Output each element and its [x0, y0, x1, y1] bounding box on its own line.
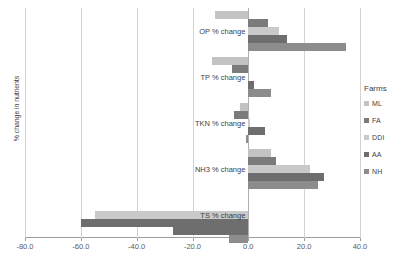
- legend-swatch-icon: [364, 152, 369, 157]
- bar-ml-2: [240, 103, 248, 111]
- legend-swatch-icon: [364, 135, 369, 140]
- y-axis-title: % change in nutrients: [13, 44, 20, 174]
- legend-title: Farms: [364, 84, 408, 93]
- bar-extra-0: [173, 227, 248, 235]
- bar-chart: % change in nutrients OP % changeTP % ch…: [0, 0, 408, 268]
- gridline--80: [25, 8, 26, 238]
- bar-ddi-2: [248, 119, 249, 127]
- plot-area: OP % changeTP % changeTKN % changeNH3 % …: [25, 8, 360, 238]
- legend: Farms MLFADDIAANH: [364, 84, 408, 184]
- category-label-4: TS % change: [163, 211, 245, 220]
- legend-item-fa[interactable]: FA: [364, 116, 408, 125]
- bar-fa-3: [248, 157, 276, 165]
- legend-label: NH: [372, 168, 383, 175]
- x-tick-mark: [360, 238, 361, 241]
- bar-aa-2: [248, 127, 265, 135]
- legend-swatch-icon: [364, 101, 369, 106]
- x-tick-mark: [81, 238, 82, 241]
- legend-items: MLFADDIAANH: [364, 99, 408, 176]
- legend-label: AA: [372, 151, 382, 158]
- x-tick-mark: [304, 238, 305, 241]
- bar-nh-3: [248, 181, 318, 189]
- category-label-2: TKN % change: [163, 119, 245, 128]
- x-tick-label: -60.0: [72, 242, 89, 251]
- bar-aa-4: [81, 219, 249, 227]
- bar-nh-0: [248, 43, 346, 51]
- legend-label: DDI: [372, 134, 385, 141]
- x-tick-mark: [248, 238, 249, 241]
- bar-aa-1: [248, 81, 254, 89]
- x-tick-label: -80.0: [16, 242, 33, 251]
- legend-swatch-icon: [364, 118, 369, 123]
- x-tick-label: 0.0: [243, 242, 253, 251]
- legend-item-ddi[interactable]: DDI: [364, 133, 408, 142]
- legend-label: FA: [372, 117, 381, 124]
- x-tick-mark: [25, 238, 26, 241]
- x-tick-label: -40.0: [128, 242, 145, 251]
- gridline--40: [137, 8, 138, 238]
- legend-swatch-icon: [364, 169, 369, 174]
- category-label-3: NH3 % change: [163, 165, 245, 174]
- bar-ml-3: [248, 149, 270, 157]
- category-label-1: TP % change: [163, 73, 245, 82]
- x-tick-mark: [193, 238, 194, 241]
- x-tick-label: 20.0: [297, 242, 312, 251]
- bar-aa-0: [248, 35, 287, 43]
- x-tick-label: 40.0: [353, 242, 368, 251]
- bar-nh-2: [246, 135, 249, 143]
- bar-ml-1: [212, 57, 248, 65]
- bar-aa-3: [248, 173, 323, 181]
- legend-item-ml[interactable]: ML: [364, 99, 408, 108]
- gridline-40: [360, 8, 361, 238]
- bar-nh-1: [248, 89, 270, 97]
- legend-label: ML: [372, 100, 382, 107]
- bar-ddi-0: [248, 27, 279, 35]
- legend-item-nh[interactable]: NH: [364, 167, 408, 176]
- bar-ddi-3: [248, 165, 309, 173]
- bar-ml-0: [215, 11, 249, 19]
- bar-fa-0: [248, 19, 268, 27]
- legend-item-aa[interactable]: AA: [364, 150, 408, 159]
- gridline--60: [81, 8, 82, 238]
- category-label-0: OP % change: [163, 27, 245, 36]
- x-tick-label: -20.0: [184, 242, 201, 251]
- x-tick-mark: [137, 238, 138, 241]
